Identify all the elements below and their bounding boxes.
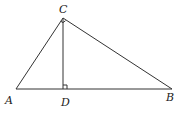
- label-b: B: [165, 91, 174, 104]
- label-d: D: [60, 96, 70, 109]
- right-angle-mark-d: [63, 85, 67, 89]
- label-a: A: [4, 94, 13, 107]
- segment-bc: [63, 18, 172, 89]
- triangle-diagram: C A D B: [0, 0, 185, 122]
- label-c: C: [59, 3, 68, 16]
- segment-ac: [16, 18, 63, 89]
